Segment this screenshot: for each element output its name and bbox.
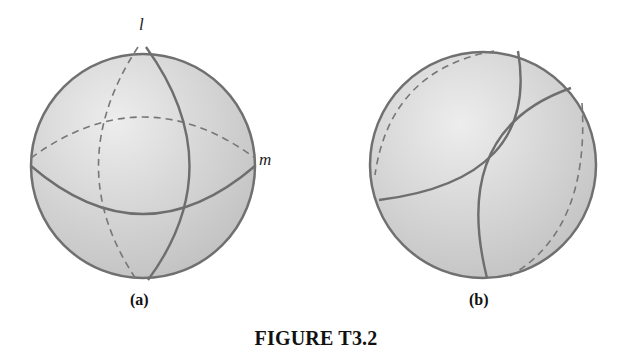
figure: l m (a) (b) FIGURE T3.2 [0, 0, 632, 356]
figure-caption: FIGURE T3.2 [0, 327, 632, 350]
sphere-a-body [31, 54, 255, 278]
panel-label-a: (a) [130, 291, 149, 309]
sphere-b-body [370, 52, 596, 278]
sphere-a [31, 47, 255, 280]
line-label-m: m [259, 150, 271, 170]
panel-label-b: (b) [469, 291, 489, 309]
line-label-l: l [139, 15, 144, 35]
sphere-b [370, 51, 596, 278]
